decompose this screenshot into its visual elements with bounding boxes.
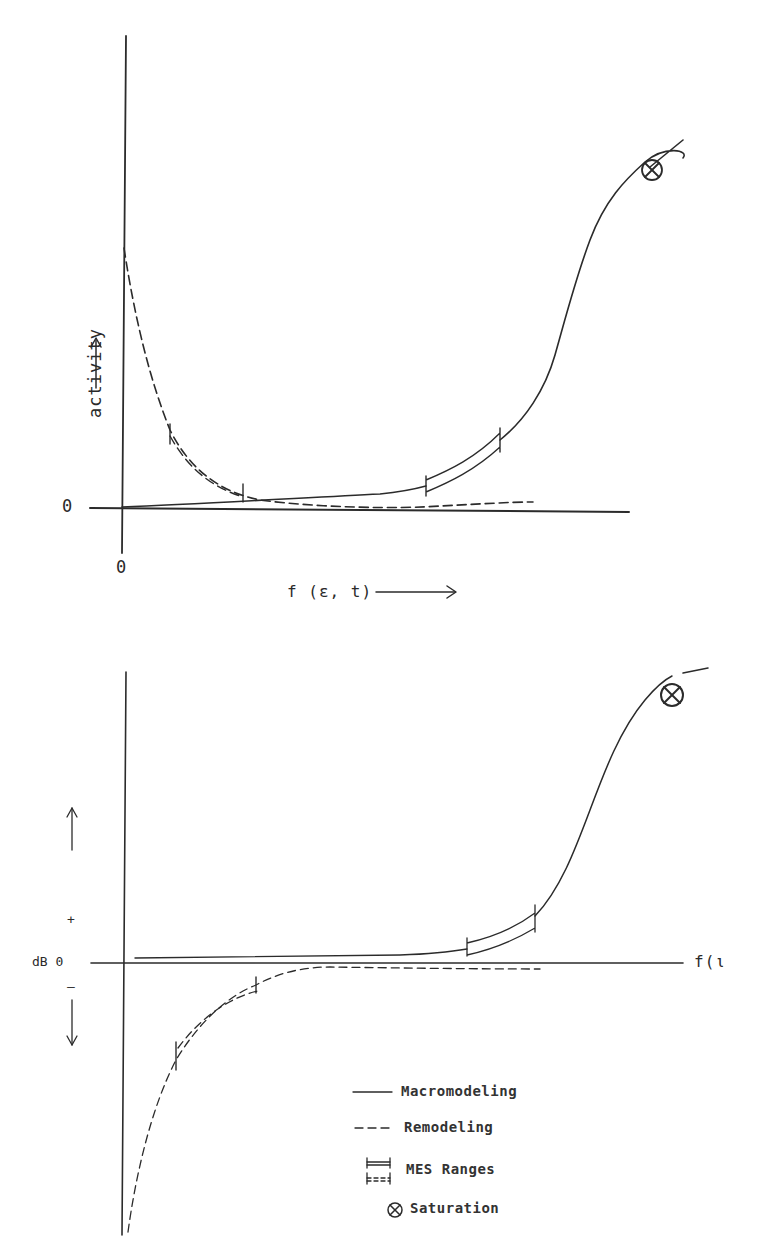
top-x-zero-label: 0: [116, 557, 126, 577]
bottom-panel: [67, 668, 708, 1235]
bottom-down-arrow-icon: [67, 1000, 77, 1045]
bottom-plus-label: +: [67, 912, 75, 927]
legend-macromodeling-label: Macromodeling: [401, 1083, 517, 1099]
top-macromodeling-curve-upper: [500, 140, 684, 440]
top-y-axis: [122, 36, 126, 553]
top-remodeling-curve-inner: [170, 436, 243, 497]
top-panel: [90, 36, 684, 598]
figure-canvas: [0, 0, 758, 1243]
bottom-up-arrow-icon: [67, 808, 77, 850]
legend-mes-ranges-label: MES Ranges: [406, 1161, 495, 1177]
top-x-axis-label: f (ε, t): [287, 582, 372, 601]
bottom-x-axis-label: f(ι: [694, 952, 726, 971]
bottom-remodeling-curve: [128, 967, 540, 1232]
bottom-macromodeling-curve: [135, 949, 467, 958]
legend-saturation-label: Saturation: [410, 1200, 499, 1216]
bottom-saturation-icon: [661, 684, 683, 706]
bottom-db-label: dB 0: [32, 954, 63, 969]
legend-remodeling-label: Remodeling: [404, 1119, 493, 1135]
bottom-mes-range: [467, 905, 535, 956]
top-x-axis: [90, 508, 629, 512]
legend-mes-range-icon: [367, 1158, 390, 1184]
bottom-minus-label: –: [67, 979, 75, 994]
bottom-macromodeling-curve-upper: [535, 668, 708, 916]
legend-symbols: [353, 1092, 402, 1217]
top-macromodeling-curve: [122, 486, 426, 507]
top-saturation-icon: [642, 160, 662, 180]
legend-saturation-icon: [388, 1203, 402, 1217]
bottom-y-axis: [122, 672, 126, 1235]
top-mes-range: [426, 428, 500, 496]
top-x-arrow-icon: [376, 586, 456, 598]
top-y-zero-label: 0: [62, 496, 72, 516]
bottom-remodeling-curve-inner: [178, 991, 258, 1048]
top-y-axis-label: activity: [85, 328, 105, 418]
